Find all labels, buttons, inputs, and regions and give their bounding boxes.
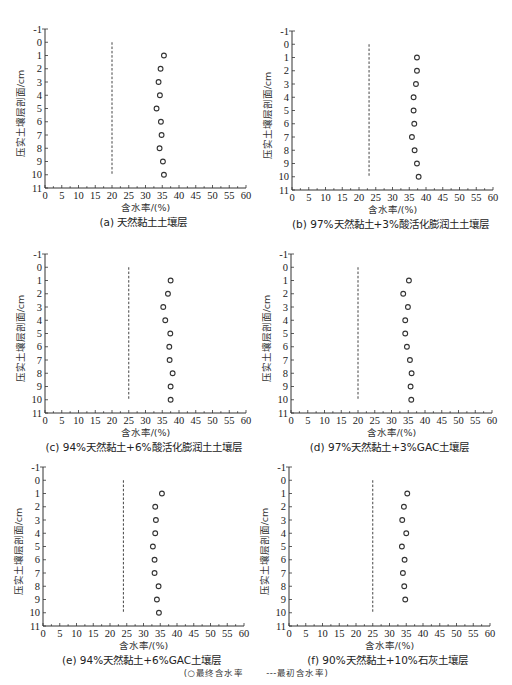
x-tick-label: 55: [222, 628, 233, 639]
x-tick-label: 60: [485, 628, 496, 639]
figure-legend: (○最终含水率 ---最初含水率): [0, 666, 512, 678]
y-tick-label: 3: [37, 77, 42, 88]
y-tick-label: 10: [32, 394, 43, 405]
y-tick-label: -1: [31, 462, 40, 473]
x-tick-label: 40: [172, 628, 183, 639]
y-tick-label: 11: [30, 621, 40, 632]
final-moisture-point: [156, 584, 161, 589]
y-tick-label: 1: [35, 488, 40, 499]
x-tick-label: 5: [303, 628, 308, 639]
y-tick-label: 6: [281, 554, 286, 565]
final-moisture-point: [415, 161, 420, 166]
chart-d: 051015202530354045505560-101234567891011…: [246, 225, 502, 450]
y-tick-label: 9: [283, 381, 288, 392]
chart-b: 051015202530354045505560-101234567891011…: [247, 2, 503, 227]
y-tick-label: 11: [276, 621, 286, 632]
x-tick-label: 0: [42, 415, 47, 426]
final-moisture-point: [415, 55, 420, 60]
x-tick-label: 35: [403, 415, 414, 426]
x-tick-label: 15: [90, 415, 101, 426]
final-moisture-point: [166, 291, 171, 296]
y-tick-label: 3: [35, 515, 40, 526]
y-tick-label: 4: [283, 315, 289, 326]
x-tick-label: 25: [124, 415, 135, 426]
final-moisture-point: [403, 331, 408, 336]
y-tick-label: 9: [284, 158, 289, 169]
chart-a: 051015202530354045505560-101234567891011…: [0, 0, 256, 225]
final-moisture-point: [401, 571, 406, 576]
x-tick-label: 45: [437, 415, 448, 426]
x-tick-label: 5: [306, 192, 311, 203]
x-tick-label: 50: [451, 628, 462, 639]
final-moisture-point: [416, 174, 421, 179]
y-tick-label: 8: [284, 145, 289, 156]
legend-close-paren: ): [324, 668, 328, 678]
x-tick-label: 35: [157, 415, 168, 426]
final-moisture-point: [163, 318, 168, 323]
x-tick-label: 10: [73, 190, 84, 201]
y-tick-label: 3: [281, 515, 286, 526]
final-moisture-point: [401, 291, 406, 296]
y-tick-label: 6: [37, 116, 42, 127]
axes: [291, 254, 492, 413]
final-moisture-point: [154, 106, 159, 111]
x-tick-label: 30: [386, 415, 397, 426]
x-tick-label: 55: [224, 190, 235, 201]
x-tick-label: 0: [40, 628, 45, 639]
y-tick-label: 9: [37, 381, 42, 392]
chart-panel-e: 051015202530354045505560-101234567891011…: [0, 438, 254, 663]
final-moisture-point: [167, 344, 172, 349]
y-tick-label: 11: [279, 185, 289, 196]
final-moisture-point: [412, 121, 417, 126]
final-moisture-point: [411, 95, 416, 100]
x-tick-label: 15: [336, 415, 347, 426]
y-tick-label: 8: [283, 368, 288, 379]
final-moisture-point: [152, 557, 157, 562]
x-tick-label: 55: [471, 192, 482, 203]
y-tick-label: -1: [280, 26, 289, 37]
x-tick-label: 60: [488, 192, 499, 203]
x-tick-label: 20: [353, 415, 364, 426]
legend-dash-icon: ---: [266, 668, 277, 678]
x-tick-label: 35: [404, 192, 415, 203]
final-moisture-point: [406, 305, 411, 310]
y-tick-label: 10: [279, 171, 290, 182]
final-moisture-point: [161, 305, 166, 310]
y-tick-label: 0: [281, 475, 286, 486]
y-tick-label: 4: [281, 528, 287, 539]
y-tick-label: 1: [284, 52, 289, 63]
x-axis-title: 含水率/(%): [121, 202, 171, 213]
final-moisture-point: [399, 544, 404, 549]
y-tick-label: 9: [281, 594, 286, 605]
y-tick-label: 5: [37, 328, 42, 339]
x-tick-label: 5: [305, 415, 310, 426]
x-tick-label: 0: [286, 628, 291, 639]
y-axis-title: 压实土壤层剖面/cm: [13, 508, 24, 596]
y-tick-label: 2: [283, 288, 288, 299]
x-tick-label: 10: [320, 192, 331, 203]
x-tick-label: 40: [420, 415, 431, 426]
y-tick-label: 6: [284, 118, 289, 129]
y-tick-label: 11: [32, 183, 42, 194]
y-tick-label: 0: [284, 39, 289, 50]
y-tick-label: 1: [37, 50, 42, 61]
x-tick-label: 40: [174, 415, 185, 426]
x-tick-label: 35: [157, 190, 168, 201]
y-tick-label: 4: [35, 528, 41, 539]
y-tick-label: 10: [32, 169, 43, 180]
x-tick-label: 40: [418, 628, 429, 639]
y-tick-label: 7: [281, 568, 286, 579]
x-tick-label: 45: [435, 628, 446, 639]
x-tick-label: 45: [438, 192, 449, 203]
y-tick-label: 3: [284, 79, 289, 90]
final-moisture-point: [404, 531, 409, 536]
x-tick-label: 15: [334, 628, 345, 639]
final-moisture-point: [409, 397, 414, 402]
y-tick-label: 7: [37, 130, 42, 141]
y-tick-label: 8: [281, 581, 286, 592]
y-tick-label: 5: [283, 328, 288, 339]
y-tick-label: 11: [278, 408, 288, 419]
x-tick-label: 20: [107, 190, 118, 201]
x-tick-label: 20: [354, 192, 365, 203]
x-tick-label: 25: [122, 628, 133, 639]
